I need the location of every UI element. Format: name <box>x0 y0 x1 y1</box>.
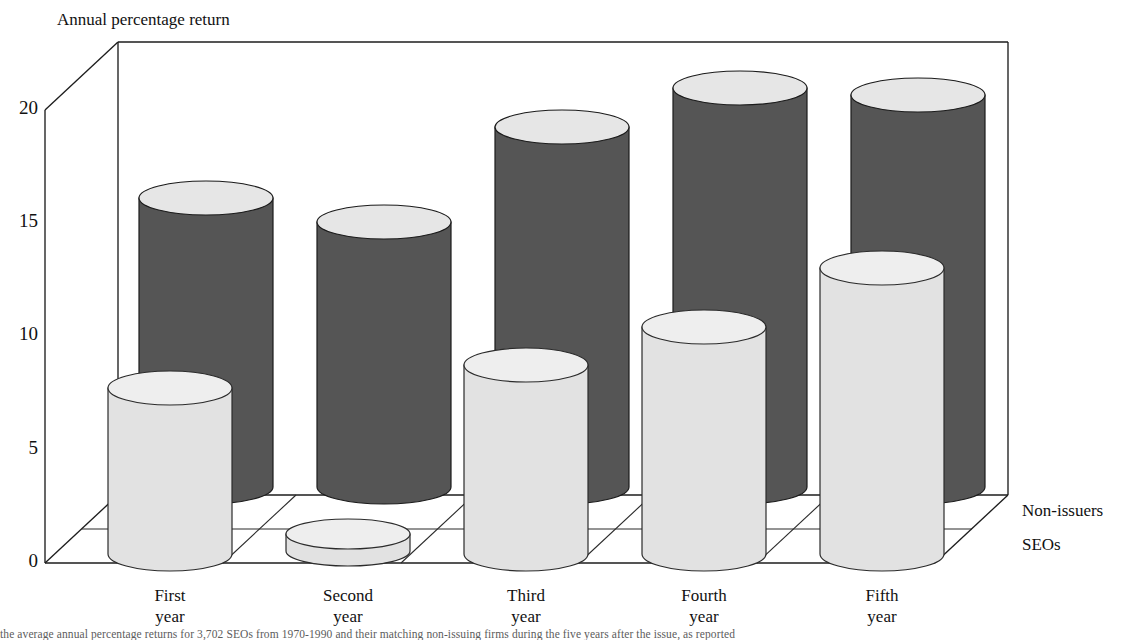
legend-item-non-issuers: Non-issuers <box>1022 501 1103 521</box>
y-axis-tick-15: 15 <box>4 210 38 232</box>
x-axis-label-fifth-year: Fifth year <box>807 585 957 627</box>
x-axis-label-second-year: Second year <box>273 585 423 627</box>
y-axis-tick-10: 10 <box>4 323 38 345</box>
bar-seos-second-year <box>286 519 410 566</box>
x-axis-label-second-year-line2: year <box>273 606 423 627</box>
bar-seos-fifth-year <box>820 251 944 571</box>
x-axis-label-fourth-year-line1: Fourth <box>629 585 779 606</box>
x-axis-label-fifth-year-line2: year <box>807 606 957 627</box>
x-axis-label-third-year-line1: Third <box>451 585 601 606</box>
x-axis-label-fourth-year: Fourth year <box>629 585 779 627</box>
x-axis-label-fifth-year-line1: Fifth <box>807 585 957 606</box>
bar-non-issuers-second-year <box>317 205 451 504</box>
x-axis-label-fourth-year-line2: year <box>629 606 779 627</box>
chart-title: Annual percentage return <box>57 10 230 30</box>
y-axis-tick-5: 5 <box>4 437 38 459</box>
chart-canvas <box>0 0 1136 640</box>
figure-caption: the average annual percentage returns fo… <box>0 628 1136 640</box>
x-axis-label-first-year: First year <box>95 585 245 627</box>
x-axis-label-first-year-line1: First <box>95 585 245 606</box>
bar-seos-fourth-year <box>642 310 766 571</box>
bar-seos-first-year <box>108 371 232 571</box>
bar-seos-third-year <box>464 348 588 571</box>
x-axis-label-third-year: Third year <box>451 585 601 627</box>
x-axis-label-third-year-line2: year <box>451 606 601 627</box>
y-axis-tick-20: 20 <box>4 97 38 119</box>
legend-item-seos: SEOs <box>1022 535 1061 555</box>
y-axis-tick-0: 0 <box>4 550 38 572</box>
x-axis-label-first-year-line2: year <box>95 606 245 627</box>
chart-figure: Annual percentage return 20 15 10 5 0 Fi… <box>0 0 1136 640</box>
x-axis-label-second-year-line1: Second <box>273 585 423 606</box>
